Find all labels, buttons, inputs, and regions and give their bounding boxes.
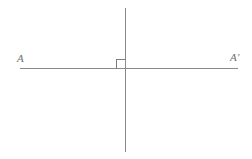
label-point-a: A (17, 53, 24, 64)
diagram-canvas (0, 0, 252, 159)
label-point-a-prime: A′ (230, 52, 240, 63)
geometry-figure: A A′ (0, 0, 252, 159)
